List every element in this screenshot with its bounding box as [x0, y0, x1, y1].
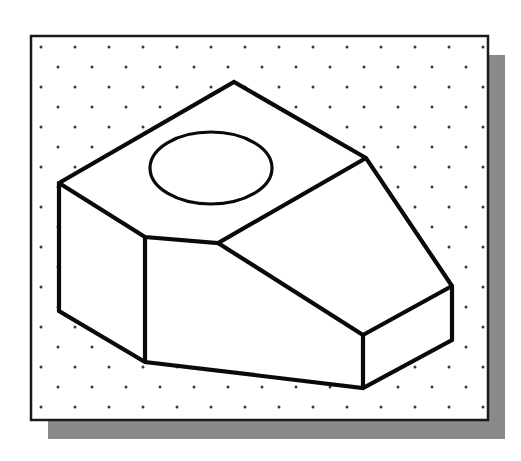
isometric-drawing-canvas	[0, 0, 521, 461]
figure-root	[0, 0, 521, 461]
